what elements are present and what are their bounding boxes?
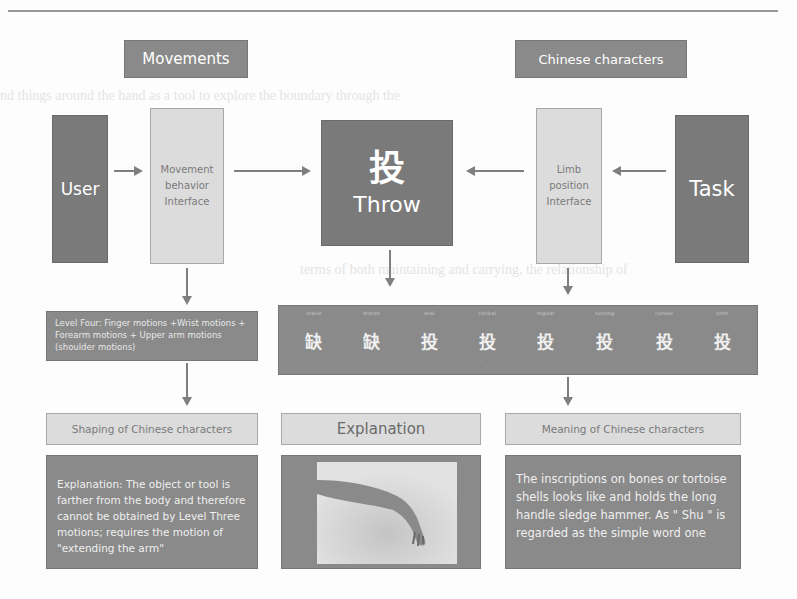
glyph: 缺 bbox=[305, 328, 322, 353]
glyph-style-label: regular bbox=[537, 310, 555, 316]
glyph-style-label: seal bbox=[424, 310, 434, 316]
movement-interface-line-2: behavior bbox=[165, 178, 209, 194]
task-label: Task bbox=[689, 177, 734, 201]
glyph: 投 bbox=[479, 328, 496, 353]
arrowhead-down-icon bbox=[385, 278, 395, 287]
page-top-rule bbox=[8, 10, 778, 12]
arrowhead-down-icon bbox=[563, 397, 573, 406]
ghost-text-line-1: nd things around the hand as a tool to e… bbox=[0, 88, 400, 104]
movement-interface-line-3: Interface bbox=[165, 194, 210, 210]
level-four-box: Level Four: Finger motions +Wrist motion… bbox=[46, 311, 258, 361]
user-box: User bbox=[52, 115, 108, 263]
shaping-content-box: Explanation: The object or tool is farth… bbox=[46, 455, 258, 569]
movement-behavior-interface-box: Movement behavior Interface bbox=[150, 108, 224, 264]
limb-position-interface-box: Limb position Interface bbox=[536, 108, 602, 264]
glyph: 缺 bbox=[363, 328, 380, 353]
throw-glyph: 投 bbox=[369, 146, 405, 190]
glyph-style-label: oracle bbox=[306, 310, 321, 316]
glyph-cell: oracle缺· bbox=[305, 306, 322, 374]
arrow-limb-to-throw bbox=[474, 170, 524, 172]
user-label: User bbox=[61, 179, 100, 199]
ghost-text-line-2: terms of both maintaining and carrying, … bbox=[300, 262, 628, 278]
arrowhead-right-icon bbox=[134, 166, 143, 176]
meaning-content-box: The inscriptions on bones or tortoise sh… bbox=[505, 455, 741, 569]
shaping-title: Shaping of Chinese characters bbox=[72, 423, 233, 435]
glyph-cell: clerical投· bbox=[478, 306, 496, 374]
glyph: 投 bbox=[656, 328, 673, 353]
arrow-limb-to-strip bbox=[567, 268, 569, 288]
glyph: 投 bbox=[537, 328, 554, 353]
glyph-cell: regular投· bbox=[537, 306, 555, 374]
explanation-header: Explanation bbox=[281, 413, 481, 445]
arrow-level-to-shaping bbox=[186, 363, 188, 399]
movements-label: Movements bbox=[124, 40, 248, 78]
meaning-header: Meaning of Chinese characters bbox=[505, 413, 741, 445]
arrow-task-to-limb bbox=[620, 170, 666, 172]
glyph: 投 bbox=[421, 328, 438, 353]
glyph-style-label: clerical bbox=[478, 310, 496, 316]
arrow-movement-to-throw bbox=[234, 170, 304, 172]
glyph-cell: seal投· bbox=[421, 306, 438, 374]
explanation-title: Explanation bbox=[337, 420, 426, 438]
shaping-text: Explanation: The object or tool is farth… bbox=[57, 478, 246, 554]
arm-illustration-icon bbox=[317, 462, 457, 564]
chinese-characters-label-text: Chinese characters bbox=[538, 52, 663, 67]
chinese-characters-label: Chinese characters bbox=[515, 40, 687, 78]
task-box: Task bbox=[675, 115, 749, 263]
glyph-cell: running投· bbox=[595, 306, 614, 374]
arrowhead-down-icon bbox=[182, 296, 192, 305]
arrowhead-right-icon bbox=[302, 166, 311, 176]
glyph-cell: cursive投· bbox=[655, 306, 673, 374]
arrow-movement-to-level bbox=[186, 268, 188, 298]
glyph-evolution-strip: oracle缺· bronze缺· seal投· clerical投· regu… bbox=[278, 305, 758, 375]
meaning-title: Meaning of Chinese characters bbox=[542, 423, 705, 435]
glyph-style-label: print bbox=[716, 310, 728, 316]
arm-photo bbox=[317, 462, 457, 564]
movement-interface-line-1: Movement bbox=[161, 162, 214, 178]
arrow-throw-to-strip bbox=[389, 250, 391, 280]
arrow-user-to-movement bbox=[114, 170, 136, 172]
limb-interface-line-1: Limb bbox=[557, 162, 581, 178]
arrowhead-down-icon bbox=[563, 286, 573, 295]
level-four-text: Level Four: Finger motions +Wrist motion… bbox=[55, 318, 245, 352]
glyph-style-label: running bbox=[595, 310, 614, 316]
limb-interface-line-3: Interface bbox=[547, 194, 592, 210]
glyph-style-label: cursive bbox=[655, 310, 673, 316]
meaning-text: The inscriptions on bones or tortoise sh… bbox=[516, 472, 727, 540]
glyph-cell: bronze缺· bbox=[363, 306, 380, 374]
throw-label: Throw bbox=[353, 190, 420, 220]
arrowhead-down-icon bbox=[182, 397, 192, 406]
arrow-strip-to-meaning bbox=[567, 377, 569, 399]
limb-interface-line-2: position bbox=[549, 178, 589, 194]
throw-box: 投 Throw bbox=[321, 120, 453, 246]
glyph: 投 bbox=[596, 328, 613, 353]
explanation-image-box bbox=[281, 455, 481, 569]
shaping-header: Shaping of Chinese characters bbox=[46, 413, 258, 445]
glyph: 投 bbox=[714, 328, 731, 353]
glyph-cell: print投· bbox=[714, 306, 731, 374]
movements-label-text: Movements bbox=[142, 50, 229, 68]
glyph-style-label: bronze bbox=[363, 310, 380, 316]
